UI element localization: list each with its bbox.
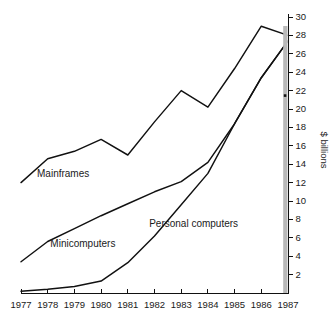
y-tick-label: 8 — [296, 213, 301, 224]
series-label-minicomputers: Minicomputers — [50, 238, 115, 249]
x-tick-label: 1987 — [277, 299, 298, 310]
x-axis-ticks: 1977197819791980198119821983198419851986… — [10, 289, 298, 310]
chart-canvas: 24681012141618202224262830 1977197819791… — [0, 0, 332, 321]
edge-artifact-dot — [284, 94, 287, 97]
y-axis-ticks: 24681012141618202224262830 — [289, 11, 306, 280]
series-line-personal-computers — [21, 41, 288, 291]
y-tick-label: 18 — [296, 121, 307, 132]
x-tick-label: 1982 — [144, 299, 165, 310]
plot-area — [21, 26, 288, 291]
y-tick-label: 30 — [296, 11, 307, 22]
x-tick-label: 1985 — [224, 299, 245, 310]
y-tick-label: 4 — [296, 250, 301, 261]
x-tick-label: 1978 — [37, 299, 58, 310]
edge-band-dark — [283, 26, 287, 293]
x-tick-label: 1984 — [197, 299, 218, 310]
x-tick-label: 1983 — [171, 299, 192, 310]
x-tick-label: 1986 — [251, 299, 272, 310]
y-tick-label: 12 — [296, 177, 307, 188]
y-tick-label: 24 — [296, 66, 307, 77]
x-tick-label: 1981 — [117, 299, 138, 310]
series-label-personal-computers: Personal computers — [149, 218, 238, 229]
y-axis-title: $ billions — [319, 132, 330, 169]
y-tick-label: 28 — [296, 29, 307, 40]
y-tick-label: 20 — [296, 103, 307, 114]
series-line-mainframes — [21, 26, 288, 182]
y-tick-label: 6 — [296, 232, 301, 243]
axes-layer — [21, 14, 289, 294]
series-layer — [21, 26, 288, 291]
series-label-mainframes: Mainframes — [37, 168, 89, 179]
x-tick-label: 1977 — [10, 299, 31, 310]
y-tick-label: 14 — [296, 158, 307, 169]
line-chart: 24681012141618202224262830 1977197819791… — [0, 0, 332, 321]
y-tick-label: 26 — [296, 48, 307, 59]
y-tick-label: 2 — [296, 269, 301, 280]
series-labels: MainframesMinicomputersPersonal computer… — [37, 168, 238, 249]
y-tick-label: 22 — [296, 85, 307, 96]
x-tick-label: 1979 — [64, 299, 85, 310]
y-tick-label: 16 — [296, 140, 307, 151]
y-tick-label: 10 — [296, 195, 307, 206]
x-tick-label: 1980 — [91, 299, 112, 310]
